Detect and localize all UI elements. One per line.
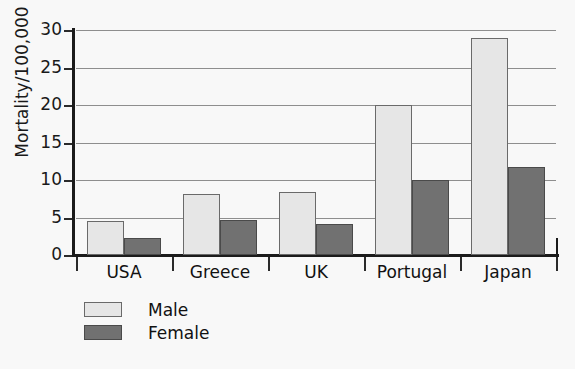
category-label-uk: UK bbox=[268, 262, 364, 282]
chart-legend: MaleFemale bbox=[84, 298, 209, 344]
category-label-portugal: Portugal bbox=[364, 262, 460, 282]
y-tick-label: 30 bbox=[4, 19, 62, 39]
bar-portugal-female bbox=[412, 180, 449, 255]
x-axis-right-cap bbox=[556, 238, 558, 257]
bar-japan-female bbox=[508, 167, 545, 255]
x-tick-mark bbox=[556, 257, 558, 271]
y-tick-label: 5 bbox=[4, 207, 62, 227]
bar-uk-male bbox=[279, 192, 316, 255]
y-tick-label: 10 bbox=[4, 169, 62, 189]
y-tick-label: 25 bbox=[4, 57, 62, 77]
bar-usa-male bbox=[87, 221, 124, 256]
y-tick-label: 20 bbox=[4, 94, 62, 114]
legend-label-male: Male bbox=[148, 300, 188, 320]
bar-greece-male bbox=[183, 194, 220, 255]
legend-item-male: Male bbox=[84, 298, 209, 321]
gridline bbox=[76, 30, 556, 31]
legend-swatch-female bbox=[84, 325, 122, 340]
legend-item-female: Female bbox=[84, 321, 209, 344]
y-tick-label: 15 bbox=[4, 132, 62, 152]
category-label-usa: USA bbox=[76, 262, 172, 282]
category-label-greece: Greece bbox=[172, 262, 268, 282]
category-label-japan: Japan bbox=[460, 262, 556, 282]
legend-label-female: Female bbox=[148, 323, 209, 343]
bar-greece-female bbox=[220, 220, 257, 255]
bar-portugal-male bbox=[375, 105, 412, 255]
bar-uk-female bbox=[316, 224, 353, 256]
legend-swatch-male bbox=[84, 302, 122, 317]
bar-chart-figure: Mortality/100,000 051015202530 USAGreece… bbox=[0, 0, 575, 369]
bar-usa-female bbox=[124, 238, 161, 255]
y-tick-label: 0 bbox=[4, 244, 62, 264]
y-axis-line bbox=[72, 28, 75, 257]
plot-area bbox=[76, 30, 556, 255]
bar-japan-male bbox=[471, 38, 508, 256]
